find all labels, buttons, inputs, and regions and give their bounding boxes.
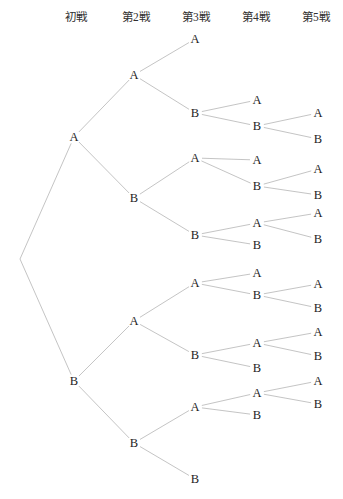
tree-node-BAB: B — [191, 349, 199, 362]
tree-node-BBAAA: A — [313, 375, 322, 388]
tree-node-BAA: A — [190, 277, 199, 290]
tree-node-ABBAB: B — [314, 233, 322, 246]
tree-node-ABB: B — [191, 229, 199, 242]
tree-node-A: A — [69, 131, 78, 144]
tree-node-ABA: A — [190, 152, 199, 165]
tree-node-B: B — [70, 375, 78, 388]
tree-node-BABAB: B — [314, 350, 322, 363]
tree-node-AABB: B — [253, 120, 261, 133]
tree-node-BABAA: A — [313, 326, 322, 339]
tree-node-BBA: A — [190, 401, 199, 414]
tree-node-BBAB: B — [253, 409, 261, 422]
tree-node-BABB: B — [253, 362, 261, 375]
tournament-tree-figure: 初戦第2戦第3戦第4戦第5戦 ABABABABABABABABABABABABA… — [0, 0, 343, 499]
tree-node-ABABB: B — [314, 189, 322, 202]
tree-node-BABA: A — [252, 337, 261, 350]
tree-node-ABABA: A — [313, 163, 322, 176]
tree-node-ABBA: A — [252, 217, 261, 230]
tree-node-AAB: B — [191, 107, 199, 120]
tree-node-BA: A — [129, 315, 138, 328]
tree-node-AABBA: A — [313, 107, 322, 120]
tree-node-ABBAA: A — [313, 207, 322, 220]
tree-node-BAABB: B — [314, 302, 322, 315]
tree-node-AABBB: B — [314, 133, 322, 146]
tree-node-ABBB: B — [253, 239, 261, 252]
tree-node-AB: B — [130, 192, 138, 205]
tree-node-AA: A — [129, 69, 138, 82]
tree-node-AABA: A — [252, 94, 261, 107]
tree-node-AAA: A — [190, 33, 199, 46]
tree-node-BAAA: A — [252, 267, 261, 280]
tree-node-BAABA: A — [313, 278, 322, 291]
tree-node-BBAAB: B — [314, 398, 322, 411]
tree-node-BBAA: A — [252, 387, 261, 400]
tree-node-layer: ABABABABABABABABABABABABABABABABABABAB — [0, 0, 343, 499]
tree-node-BBB: B — [191, 473, 199, 486]
tree-node-BB: B — [130, 437, 138, 450]
tree-node-ABAA: A — [252, 154, 261, 167]
tree-node-BAAB: B — [253, 289, 261, 302]
tree-node-ABAB: B — [253, 180, 261, 193]
